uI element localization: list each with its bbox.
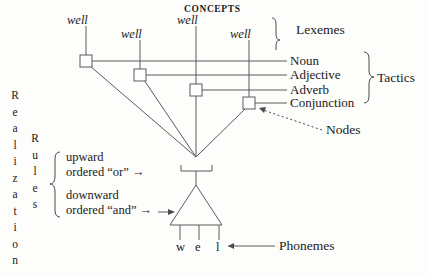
category-label-adjective: Adjective [290, 68, 341, 81]
and-pointer-arrowhead [168, 209, 175, 215]
node-square-3 [190, 84, 202, 96]
nodes-leader-line [263, 110, 322, 130]
realization-rules-bracket [50, 152, 60, 217]
realization-vertical-label: Realization [8, 89, 22, 271]
phoneme-symbol-l: l [216, 241, 219, 254]
rules-letter-1: R [28, 132, 42, 149]
realization-letter-3: a [8, 122, 22, 139]
category-label-noun: Noun [290, 54, 319, 67]
realization-letter-8: t [8, 205, 22, 222]
realization-letter-2: e [8, 106, 22, 123]
realization-letter-11: n [8, 254, 22, 271]
realization-letter-5: i [8, 155, 22, 172]
phoneme-symbol-e: e [195, 241, 201, 254]
lexemes-bracket [272, 18, 280, 50]
rules-letter-3: l [28, 165, 42, 182]
rules-letter-4: e [28, 182, 42, 199]
nodes-arrow-head [259, 107, 266, 113]
lexemes-label: Lexemes [296, 23, 345, 37]
rule-and-line2: ordered “and” → [66, 204, 152, 217]
rules-vertical-label: Rules [28, 132, 42, 215]
tactics-bracket [364, 52, 374, 103]
realization-letter-7: a [8, 188, 22, 205]
rules-letter-2: u [28, 149, 42, 166]
and-triangle [170, 185, 222, 225]
category-label-conjunction: Conjunction [290, 96, 354, 109]
nodes-label: Nodes [326, 123, 361, 137]
relational-network-figure: CONCEPTS well well well well Lexemes Nou… [0, 0, 429, 277]
tactics-label: Tactics [377, 71, 415, 85]
rule-or-line1: upward [66, 151, 104, 164]
node-square-2 [134, 69, 146, 81]
realization-letter-10: o [8, 238, 22, 255]
lexeme-word-2: well [121, 28, 142, 41]
node-square-4 [243, 97, 255, 109]
rule-and-line1: downward [66, 189, 119, 202]
phoneme-symbol-w: w [176, 241, 185, 254]
converge-line-4 [196, 108, 246, 157]
realization-letter-6: z [8, 172, 22, 189]
realization-letter-4: l [8, 139, 22, 156]
phonemes-label: Phonemes [279, 239, 335, 253]
diagram-lines-layer [0, 0, 429, 277]
rule-or-line2: ordered “or” → [66, 166, 144, 179]
lexeme-word-3: well [177, 14, 198, 27]
phonemes-arrow-head [228, 243, 234, 249]
realization-letter-9: i [8, 221, 22, 238]
rules-letter-5: s [28, 198, 42, 215]
realization-letter-1: R [8, 89, 22, 106]
lexeme-word-4: well [230, 28, 251, 41]
node-square-1 [80, 55, 92, 67]
lexeme-word-1: well [67, 14, 88, 27]
